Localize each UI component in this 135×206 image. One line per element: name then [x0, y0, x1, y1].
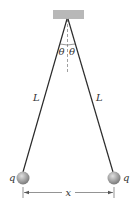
charge-label-right: q	[123, 172, 129, 183]
arrowhead-right-icon	[108, 191, 113, 194]
length-label-left: L	[32, 92, 40, 103]
angle-label-left: θ	[59, 46, 65, 57]
separation-label: x	[66, 187, 72, 198]
angle-label-right: θ	[69, 46, 75, 57]
pendulum-diagram: θ θ L L q q x	[0, 0, 135, 206]
right-sphere	[108, 172, 121, 185]
charge-label-left: q	[9, 172, 15, 183]
length-label-right: L	[95, 92, 103, 103]
ceiling-support	[53, 10, 84, 19]
left-sphere	[17, 172, 30, 185]
left-string	[23, 19, 67, 172]
right-string	[68, 19, 113, 172]
arrowhead-left-icon	[24, 191, 29, 194]
